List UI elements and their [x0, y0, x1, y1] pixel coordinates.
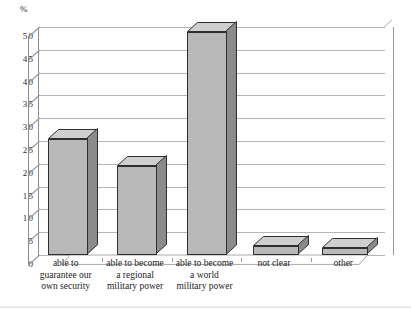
bar-side-face [87, 128, 99, 255]
x-axis-category-label: able to guarantee our own security [31, 258, 100, 293]
bar-side-face [226, 21, 238, 255]
bars [38, 18, 394, 267]
y-axis-line [28, 36, 29, 264]
bar-front-face [48, 139, 88, 255]
bar-front-face [253, 246, 299, 255]
bar-side-face [367, 237, 379, 255]
x-axis-category-label: not clear [239, 258, 308, 270]
bar-front-face [117, 166, 157, 255]
x-axis-category-label: able to become a world military power [170, 258, 239, 293]
x-axis-category-label: able to become a regional military power [100, 258, 169, 293]
bar-side-face [298, 235, 310, 255]
bar-column [322, 237, 368, 255]
x-axis-category-label: other [309, 258, 378, 270]
bar-column [187, 21, 227, 255]
bar-front-face [322, 248, 368, 255]
bar-column [117, 155, 157, 255]
bar-front-face [187, 32, 227, 255]
bar-column [253, 235, 299, 255]
bar-chart: % 05101520253035404550 able to guarantee… [0, 0, 411, 310]
x-axis-category-labels: able to guarantee our own securityable t… [38, 258, 394, 310]
scan-edge-artifact [0, 306, 411, 308]
bar-side-face [156, 155, 168, 255]
bar-column [48, 128, 88, 255]
